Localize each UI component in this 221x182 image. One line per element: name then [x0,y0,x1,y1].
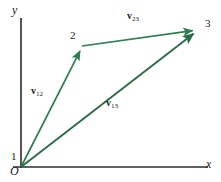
point-label-3: 3 [205,18,211,29]
point-label-2: 2 [70,30,76,41]
vector-label-v23: v23 [127,11,139,23]
vector-subscript-v12: 12 [36,90,43,98]
vector-v23-arrow [82,31,193,46]
vector-label-v12: v12 [31,86,43,98]
vector-subscript-v13: 13 [111,102,118,110]
vector-subscript-v23: 23 [132,15,139,23]
vector-label-v13: v13 [106,98,118,110]
x-axis-label: x [206,158,211,170]
vector-v12-arrow [21,51,80,167]
vector-diagram-figure: y x O 1 2 3 v12 v23 v13 [0,0,221,182]
point-label-1: 1 [11,151,17,162]
y-axis-label: y [12,4,17,16]
origin-label: O [10,165,19,177]
